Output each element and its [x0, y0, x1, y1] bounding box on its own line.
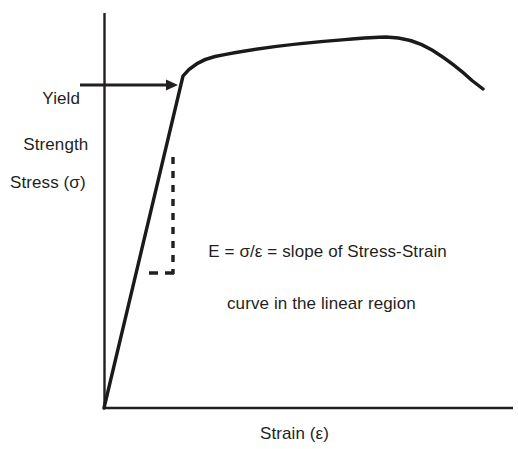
y-axis-label: Stress (σ) [10, 171, 86, 194]
x-axis-label: Strain (ε) [260, 422, 329, 445]
modulus-annotation-line-1: E = σ/ε = slope of Stress-Strain [208, 242, 447, 261]
modulus-annotation: E = σ/ε = slope of Stress-Strain curve i… [189, 213, 447, 369]
yield-strength-line-2: Strength [23, 135, 88, 154]
yield-strength-label: Yield Strength [4, 64, 80, 179]
yield-strength-line-1: Yield [42, 89, 80, 108]
modulus-annotation-line-2: curve in the linear region [189, 291, 447, 317]
stress-strain-figure: Yield Strength Stress (σ) E = σ/ε = slop… [0, 0, 518, 449]
slope-triangle-dashed [149, 157, 175, 274]
yield-strength-arrow [80, 80, 178, 91]
